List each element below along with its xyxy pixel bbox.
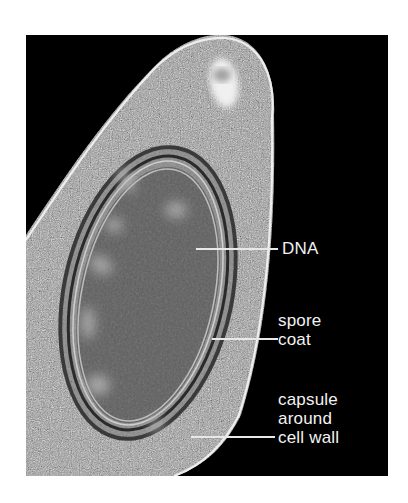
dna-label: DNA [282, 239, 319, 258]
capsule-label: capsule around cell wall [278, 390, 339, 447]
spore-coat-label: spore coat [278, 311, 322, 349]
spore-coat-leader-line [212, 338, 278, 340]
dna-leader-line [196, 248, 278, 250]
micrograph-frame: DNA spore coat capsule around cell wall [26, 35, 388, 476]
capsule-leader-line [191, 436, 275, 438]
